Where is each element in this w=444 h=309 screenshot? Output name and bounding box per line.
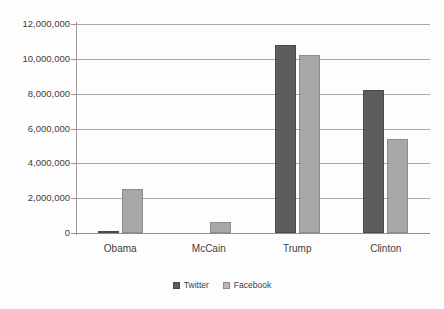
gridline <box>76 59 430 60</box>
bar-clinton-twitter <box>363 90 384 233</box>
legend-item-facebook[interactable]: Facebook <box>223 281 271 290</box>
bar-obama-twitter <box>98 231 119 233</box>
y-axis-tick <box>71 94 76 95</box>
y-axis-tick <box>71 129 76 130</box>
x-axis-label-trump: Trump <box>253 243 341 255</box>
y-axis-tick <box>71 198 76 199</box>
x-axis-label-obama: Obama <box>76 243 164 255</box>
bar-mccain-facebook <box>210 222 231 233</box>
y-axis-tick-label: 2,000,000 <box>28 193 70 203</box>
bar-obama-facebook <box>122 189 143 233</box>
gridline <box>76 24 430 25</box>
y-axis-tick <box>71 163 76 164</box>
x-axis-label-clinton: Clinton <box>342 243 430 255</box>
bar-chart: TwitterFacebook 02,000,0004,000,0006,000… <box>0 0 444 309</box>
bar-trump-facebook <box>299 55 320 233</box>
legend-swatch-icon <box>223 282 230 289</box>
y-axis-tick <box>71 233 76 234</box>
plot-area <box>76 24 430 233</box>
x-axis-label-mccain: McCain <box>165 243 253 255</box>
y-axis-tick <box>71 59 76 60</box>
bar-clinton-facebook <box>387 139 408 233</box>
y-axis-tick <box>71 24 76 25</box>
gridline <box>76 233 430 234</box>
y-axis-tick-label: 4,000,000 <box>28 158 70 168</box>
chart-legend: TwitterFacebook <box>0 281 444 290</box>
legend-label: Twitter <box>184 281 209 290</box>
y-axis-tick-label: 10,000,000 <box>22 54 70 64</box>
y-axis-tick-label: 12,000,000 <box>22 19 70 29</box>
legend-item-twitter[interactable]: Twitter <box>173 281 209 290</box>
y-axis-tick-label: 0 <box>65 228 70 238</box>
y-axis-tick-label: 6,000,000 <box>28 124 70 134</box>
legend-swatch-icon <box>173 282 180 289</box>
bar-trump-twitter <box>275 45 296 233</box>
legend-label: Facebook <box>234 281 271 290</box>
y-axis-tick-label: 8,000,000 <box>28 89 70 99</box>
